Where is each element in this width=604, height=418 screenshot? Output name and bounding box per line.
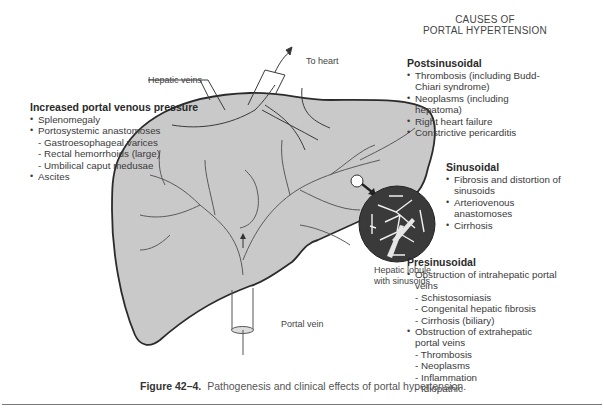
causes-list: Obstruction of intrahepatic portal veins… [407, 269, 557, 394]
caption-divider [2, 404, 602, 405]
label-portal-vein: Portal vein [281, 319, 324, 329]
causes-list: Thrombosis (including Budd-Chiari syndro… [407, 70, 557, 138]
panel-postsinusoidal: Postsinusoidal Thrombosis (including Bud… [407, 57, 557, 138]
list-item: Obstruction of intrahepatic portal veins [407, 269, 557, 292]
effects-list: Splenomegaly Portosystemic anastomoses G… [30, 114, 210, 182]
panel-increased-portal-pressure: Increased portal venous pressure Splenom… [30, 101, 210, 182]
list-subitem: Schistosomiasis [407, 292, 557, 303]
list-item: Thrombosis (including Budd-Chiari syndro… [407, 70, 557, 93]
panel-heading: Postsinusoidal [407, 57, 557, 69]
list-item: Neoplasms (including hepatoma) [407, 93, 557, 116]
list-item: Portosystemic anastomoses [30, 125, 210, 136]
label-to-heart: To heart [306, 56, 339, 66]
panel-heading: Sinusoidal [446, 161, 566, 173]
title-line-1: CAUSES OF [400, 14, 570, 25]
panel-heading: Increased portal venous pressure [30, 101, 210, 113]
list-subitem: Neoplasms [407, 360, 557, 371]
title-line-2: PORTAL HYPERTENSION [400, 25, 570, 36]
figure-caption: Figure 42–4. Pathogenesis and clinical e… [140, 380, 466, 392]
list-subitem: Congenital hepatic fibrosis [407, 303, 557, 314]
list-item: Arteriovenous anastomoses [446, 197, 566, 220]
panel-heading: Presinusoidal [407, 256, 557, 268]
list-item: Fibrosis and distortion of sinusoids [446, 174, 566, 197]
list-item: Constrictive pericarditis [407, 127, 557, 138]
list-subitem: Gastroesophageal varices [30, 137, 210, 148]
panel-presinusoidal: Presinusoidal Obstruction of intrahepati… [407, 256, 557, 394]
list-item: Splenomegaly [30, 114, 210, 125]
figure-label: Figure 42–4. [140, 380, 201, 392]
list-subitem: Cirrhosis (biliary) [407, 315, 557, 326]
causes-list: Fibrosis and distortion of sinusoids Art… [446, 174, 566, 231]
list-item: Obstruction of extrahepatic portal veins [407, 326, 557, 349]
list-item: Cirrhosis [446, 220, 566, 231]
panel-sinusoidal: Sinusoidal Fibrosis and distortion of si… [446, 161, 566, 231]
caption-text: Pathogenesis and clinical effects of por… [207, 380, 466, 392]
list-item: Right heart failure [407, 116, 557, 127]
list-subitem: Umbilical caput medusae [30, 160, 210, 171]
list-subitem: Rectal hemorrhoids (large) [30, 148, 210, 159]
list-item: Ascites [30, 171, 210, 182]
hepatic-lobule-icon [359, 186, 435, 262]
diagram-title: CAUSES OF PORTAL HYPERTENSION [400, 14, 570, 36]
list-subitem: Thrombosis [407, 349, 557, 360]
label-hepatic-veins: Hepatic veins [148, 75, 202, 85]
